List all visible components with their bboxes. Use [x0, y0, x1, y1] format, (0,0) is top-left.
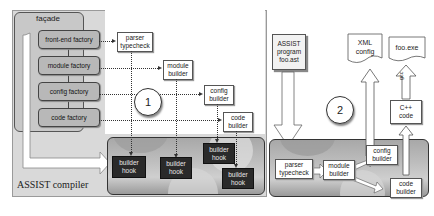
gcc-arrow [395, 64, 417, 100]
stage-module-builder: modulebuilder [323, 160, 355, 180]
stage-code-builder: codebuilder [390, 178, 422, 198]
facade-to-hooks-arrow [20, 30, 110, 180]
gcc-label: gcc [398, 71, 404, 80]
builder-hook-config: builderhook [203, 143, 235, 164]
gear-icon [113, 137, 168, 153]
xml-config-label: XML config [347, 38, 383, 56]
builder-hook-code: builderhook [222, 168, 254, 189]
arrow-module-factory-to-builder [99, 68, 158, 69]
arrow-frontend-to-parser [99, 41, 112, 42]
step-marker-1: 1 [134, 88, 162, 116]
arrow-tip [158, 66, 162, 70]
arrow-tip [112, 39, 116, 43]
arrow-code-to-hook [236, 131, 237, 164]
cpp-code-box: C++code [390, 100, 422, 124]
config-builder: configbuilder [204, 85, 234, 105]
assist-compiler-label: ASSIST compiler [17, 179, 88, 190]
arrow-module-to-hook [176, 79, 177, 154]
arrow-config-to-hook [217, 104, 218, 139]
stage-config-builder: configbuilder [366, 145, 398, 165]
arrow-code-factory-to-builder [99, 120, 218, 121]
arrow-tip [199, 92, 203, 96]
stage-parser-typecheck: parsertypecheck [275, 159, 313, 179]
module-builder: modulebuilder [163, 60, 193, 80]
builder-hook-parser: builderhook [112, 156, 146, 178]
facade-label: façade [14, 14, 82, 23]
code-builder: codebuilder [223, 112, 253, 132]
source-to-parser-arrow [272, 70, 304, 150]
arrow-parser-to-hook [131, 51, 132, 152]
builder-hook-module: builderhook [160, 157, 192, 179]
exe-label: foo.exe [388, 44, 426, 51]
parser-typecheck-builder: parsertypecheck [117, 32, 153, 52]
step-marker-2: 2 [326, 96, 354, 124]
arrow-tip [218, 118, 222, 122]
source-program-document: ASSIST program foo.ast [272, 34, 306, 70]
